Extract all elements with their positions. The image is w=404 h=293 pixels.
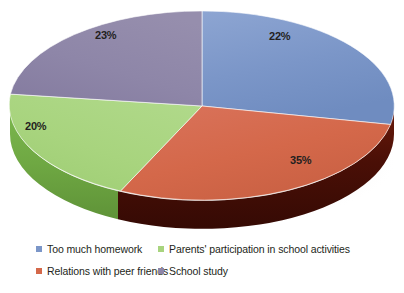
legend-swatch-red-icon: [36, 268, 42, 274]
pie-data-label-parents-participation: 20%: [25, 120, 46, 132]
legend-swatch-green-icon: [158, 246, 164, 252]
legend-item-parents-participation[interactable]: Parents' participation in school activit…: [158, 238, 404, 260]
legend-label-too-much-homework: Too much homework: [47, 243, 142, 255]
legend-item-too-much-homework[interactable]: Too much homework: [0, 238, 158, 260]
pie-data-label-too-much-homework: 22%: [269, 30, 290, 42]
pie-chart-figure: 22% 35% 20% 23% Too much homework Parent…: [0, 0, 404, 293]
legend-row: Too much homework Parents' participation…: [0, 238, 404, 260]
pie-chart-svg: [0, 0, 404, 236]
legend-label-school-study: School study: [169, 265, 228, 277]
pie-data-label-relations-with-peers: 35%: [290, 154, 311, 166]
pie-data-label-school-study: 23%: [95, 29, 116, 41]
pie-chart-plot-area: 22% 35% 20% 23%: [0, 0, 404, 236]
legend-swatch-purple-icon: [158, 268, 164, 274]
legend-row: Relations with peer friends School study: [0, 260, 404, 282]
legend-label-parents-participation: Parents' participation in school activit…: [169, 243, 350, 255]
chart-legend: Too much homework Parents' participation…: [0, 238, 404, 293]
pie-slice-school-study[interactable]: [10, 11, 202, 106]
legend-item-school-study[interactable]: School study: [158, 260, 404, 282]
legend-item-relations-with-peer-friends[interactable]: Relations with peer friends: [0, 260, 158, 282]
legend-swatch-blue-icon: [36, 246, 42, 252]
pie-slice-too-much-homework[interactable]: [202, 11, 394, 125]
legend-label-relations-with-peer-friends: Relations with peer friends: [47, 265, 168, 277]
